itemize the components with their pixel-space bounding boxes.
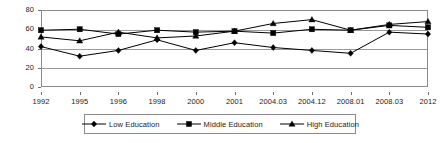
legend-entry[interactable]: Middle Education	[176, 119, 263, 129]
x-tick-mark	[351, 92, 352, 95]
y-tick-label: 0	[30, 83, 34, 91]
x-tick-mark	[80, 92, 81, 95]
series-layer	[41, 10, 428, 87]
x-tick-label: 1995	[71, 97, 88, 106]
x-tick-label: 2004.03	[259, 97, 287, 106]
x-tick-mark	[196, 92, 197, 95]
chart-legend: Low EducationMiddle EducationHigh Educat…	[84, 114, 356, 134]
legend-diamond-icon	[81, 119, 107, 129]
y-tick-label: 80	[25, 6, 34, 14]
data-point	[271, 31, 276, 36]
data-point	[309, 47, 314, 53]
data-point	[387, 29, 392, 35]
legend-triangle-icon	[279, 119, 305, 129]
data-point	[77, 53, 82, 59]
x-tick-mark	[312, 92, 313, 95]
data-point	[348, 50, 353, 56]
data-point	[116, 47, 121, 53]
y-axis: 020406080	[0, 0, 38, 143]
line-chart: 020406080 1992199519961998200020012004.0…	[0, 0, 443, 143]
y-tick-mark	[38, 87, 41, 88]
x-tick-label: 1992	[32, 97, 49, 106]
x-tick-mark	[118, 92, 119, 95]
x-tick-mark	[41, 92, 42, 95]
y-tick-label: 40	[25, 45, 34, 53]
x-tick-mark	[273, 92, 274, 95]
x-tick-mark	[389, 92, 390, 95]
data-point	[77, 27, 82, 32]
legend-label: Middle Education	[204, 120, 263, 129]
x-tick-label: 2008.03	[375, 97, 403, 106]
series-high-education	[38, 17, 431, 44]
legend-square-icon	[176, 119, 202, 129]
x-tick-mark	[235, 92, 236, 95]
x-tick-mark	[428, 92, 429, 95]
legend-label: High Education	[307, 120, 359, 129]
legend-entry[interactable]: High Education	[279, 119, 359, 129]
y-tick-label: 60	[25, 25, 34, 33]
legend-label: Low Education	[109, 120, 160, 129]
data-point	[38, 28, 43, 33]
x-tick-label: 2000	[187, 97, 204, 106]
x-tick-label: 2004.12	[298, 97, 326, 106]
data-point	[271, 45, 276, 51]
data-point	[425, 31, 430, 37]
legend-entry[interactable]: Low Education	[81, 119, 160, 129]
data-point	[232, 40, 237, 46]
data-point	[425, 18, 431, 23]
x-tick-label: 2008.01	[337, 97, 365, 106]
x-tick-label: 1996	[110, 97, 127, 106]
data-point	[309, 27, 314, 32]
data-point	[38, 34, 44, 39]
y-tick-label: 20	[25, 64, 34, 72]
data-point	[309, 17, 315, 22]
data-point	[155, 28, 160, 33]
data-point	[425, 25, 430, 30]
data-point	[193, 47, 198, 53]
x-tick-label: 1998	[149, 97, 166, 106]
x-tick-label: 2012	[419, 97, 436, 106]
x-tick-mark	[157, 92, 158, 95]
x-axis: 1992199519961998200020012004.032004.1220…	[41, 92, 428, 106]
x-tick-label: 2001	[226, 97, 243, 106]
